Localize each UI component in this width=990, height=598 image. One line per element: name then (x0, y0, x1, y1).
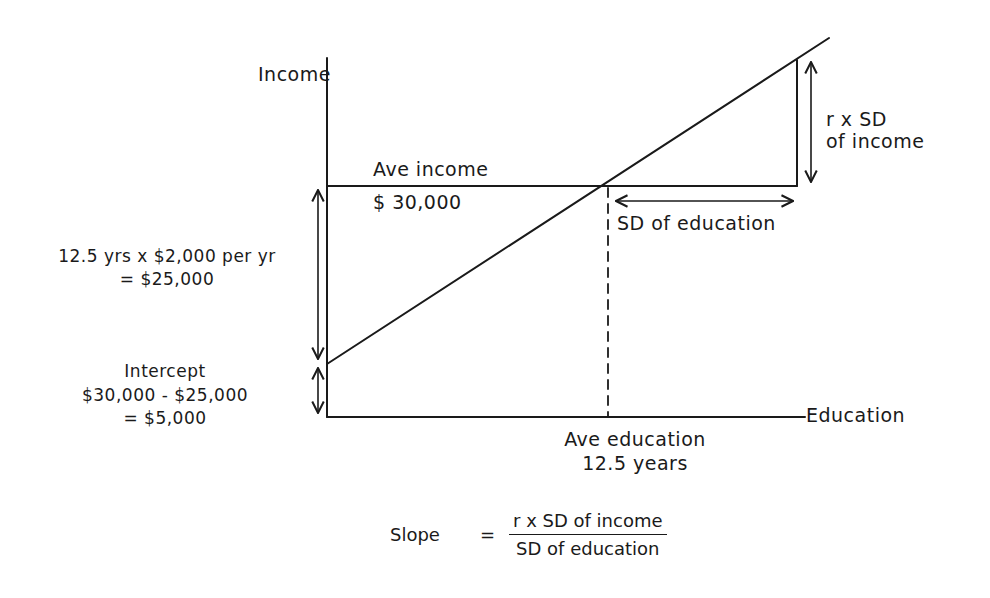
average-education-value: 12.5 years (520, 452, 750, 474)
intercept-calculation: $30,000 - $25,000 (40, 384, 290, 406)
average-income-value: $ 30,000 (373, 191, 462, 213)
drop-annotation-line1: 12.5 yrs x $2,000 per yr (22, 245, 312, 267)
equals-sign: = (480, 524, 495, 545)
x-axis-label: Education (806, 404, 905, 426)
slope-denominator: SD of education (512, 535, 663, 559)
intercept-label: Intercept (40, 360, 290, 382)
drop-annotation-line2: = $25,000 (22, 268, 312, 290)
rise-annotation-line2: of income (826, 130, 924, 152)
run-annotation: SD of education (617, 212, 776, 234)
slope-fraction: r x SD of income SD of education (509, 510, 667, 559)
slope-formula: Slope = r x SD of income SD of education (390, 510, 667, 559)
slope-label: Slope (390, 524, 440, 545)
average-income-label: Ave income (373, 158, 488, 180)
intercept-value: = $5,000 (40, 407, 290, 429)
average-education-label: Ave education (520, 428, 750, 450)
slope-numerator: r x SD of income (509, 510, 667, 535)
regression-diagram (0, 0, 990, 598)
y-axis-label: Income (258, 63, 331, 85)
rise-annotation-line1: r x SD (826, 108, 887, 130)
